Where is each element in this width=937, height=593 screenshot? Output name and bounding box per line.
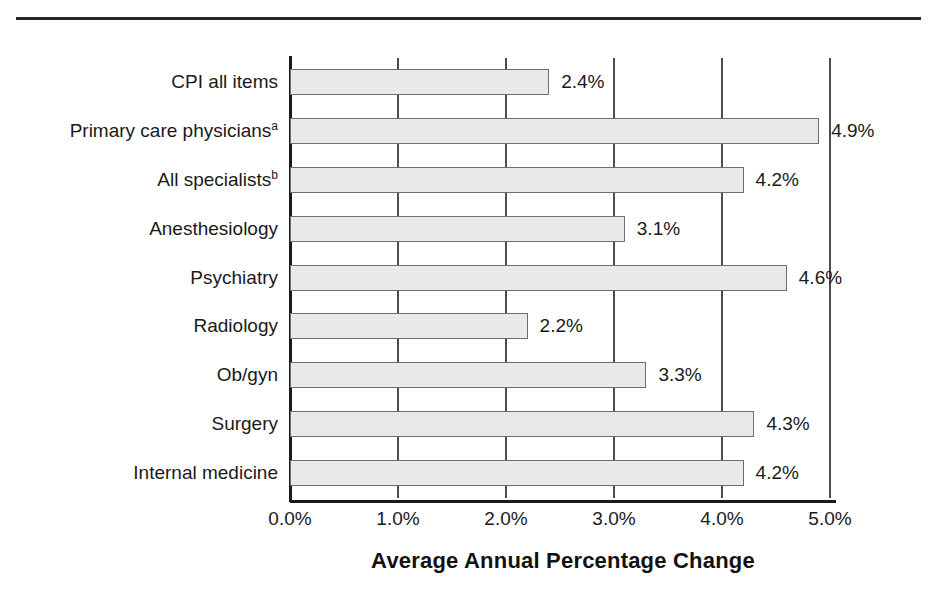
bar-value-label: 4.2% (756, 167, 799, 193)
bar (290, 362, 646, 388)
category-label: Radiology (194, 313, 279, 339)
x-tick-label: 0.0% (268, 508, 311, 530)
bar-value-label: 4.9% (831, 118, 874, 144)
bar-value-label: 4.6% (799, 265, 842, 291)
bar-row: Radiology2.2% (290, 302, 830, 351)
category-label: Primary care physiciansa (70, 118, 278, 144)
bar-value-label: 3.3% (658, 362, 701, 388)
category-label: CPI all items (171, 69, 278, 95)
x-tick-label: 5.0% (808, 508, 851, 530)
footnote-marker: a (271, 119, 278, 133)
bar-row: Anesthesiology3.1% (290, 205, 830, 254)
category-label: Psychiatry (190, 265, 278, 291)
plot-area: CPI all items2.4%Primary care physicians… (290, 58, 830, 498)
x-tick-label: 4.0% (700, 508, 743, 530)
bar-value-label: 3.1% (637, 216, 680, 242)
bar (290, 69, 549, 95)
category-label: All specialistsb (157, 167, 278, 193)
bar (290, 460, 744, 486)
bar (290, 118, 819, 144)
bar-row: Primary care physiciansa4.9% (290, 107, 830, 156)
x-tick-label: 1.0% (376, 508, 419, 530)
x-axis-tick-labels: 0.0%1.0%2.0%3.0%4.0%5.0% (290, 508, 830, 538)
bar (290, 411, 754, 437)
bar (290, 313, 528, 339)
category-label: Surgery (211, 411, 278, 437)
bar (290, 265, 787, 291)
bar-row: CPI all items2.4% (290, 58, 830, 107)
bar-value-label: 4.2% (756, 460, 799, 486)
bar-row: Ob/gyn3.3% (290, 351, 830, 400)
top-rule-divider (16, 17, 921, 20)
bar-row: Psychiatry4.6% (290, 254, 830, 303)
bar-row: Internal medicine4.2% (290, 449, 830, 498)
x-axis-line (290, 500, 836, 503)
bar-row: All specialistsb4.2% (290, 156, 830, 205)
x-tick-label: 3.0% (592, 508, 635, 530)
bar-value-label: 4.3% (766, 411, 809, 437)
bar (290, 167, 744, 193)
category-label: Anesthesiology (149, 216, 278, 242)
footnote-marker: b (271, 167, 278, 181)
x-axis-title: Average Annual Percentage Change (290, 548, 836, 574)
bar-row: Surgery4.3% (290, 400, 830, 449)
category-label: Ob/gyn (217, 362, 278, 388)
category-label: Internal medicine (133, 460, 278, 486)
x-tick-label: 2.0% (484, 508, 527, 530)
bar-value-label: 2.2% (540, 313, 583, 339)
bar-value-label: 2.4% (561, 69, 604, 95)
bar (290, 216, 625, 242)
figure: CPI all items2.4%Primary care physicians… (0, 0, 937, 593)
